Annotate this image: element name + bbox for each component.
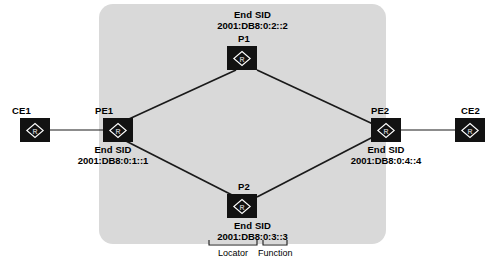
router-icon: R — [376, 122, 396, 139]
router-icon: R — [460, 122, 480, 139]
sid-title-pe2: End SID — [326, 144, 446, 155]
node-pe2[interactable]: R — [371, 118, 401, 142]
function-bracket — [263, 240, 287, 245]
svg-text:R: R — [383, 127, 388, 134]
svg-text:R: R — [467, 127, 472, 134]
node-label-ce2: CE2 — [461, 105, 480, 116]
node-ce2[interactable]: R — [455, 118, 485, 142]
locator-function-brackets — [0, 0, 490, 265]
locator-bracket — [209, 240, 257, 245]
network-topology-diagram: CE1 R PE1 R End SID 2001:DB8:0:1::1 End … — [0, 0, 490, 265]
function-annotation-label: Function — [258, 248, 292, 258]
sid-value-pe2: 2001:DB8:0:4::4 — [326, 155, 446, 166]
node-label-pe2: PE2 — [371, 105, 389, 116]
sid-label-pe2: End SID 2001:DB8:0:4::4 — [326, 144, 446, 166]
locator-annotation-label: Locator — [209, 248, 257, 258]
